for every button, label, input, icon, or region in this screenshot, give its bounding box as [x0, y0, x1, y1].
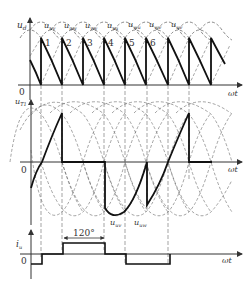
svg-text:4: 4 — [108, 38, 114, 48]
svg-text:uvu: uvu — [107, 21, 118, 31]
iu-origin-label: 0 — [21, 256, 27, 266]
svg-text:3: 3 — [87, 38, 93, 48]
svg-text:2: 2 — [66, 38, 72, 48]
svg-text:uvw: uvw — [85, 21, 98, 31]
svg-text:uuw: uuw — [64, 21, 77, 31]
svg-text:uwu: uwu — [128, 20, 141, 30]
svg-text:1: 1 — [45, 38, 51, 48]
ut1-axis-label: uT1 — [15, 97, 27, 107]
waveform-diagram: ud 0 ωt uuv uuw uvw uvu uwu uwv uuv 1 2 … — [0, 0, 251, 289]
panel-output-voltage: ud 0 ωt uuv uuw uvw uvu uwu uwv uuv 1 2 … — [17, 18, 242, 100]
panel-phase-current: 120° iu 0 ωt — [16, 228, 242, 279]
iu-x-label: ωt — [222, 256, 233, 265]
svg-text:5: 5 — [129, 38, 135, 48]
annotation-uuv: uuv — [110, 218, 121, 228]
ud-axis-label: ud — [17, 20, 27, 31]
ut1-x-label: ωt — [228, 165, 239, 174]
commutation-guides — [41, 85, 189, 265]
ud-waveform — [30, 38, 225, 85]
panel-thyristor-voltage: 0 uT1 ωt uuv uuw — [10, 97, 242, 228]
ut1-waveform — [31, 113, 212, 215]
ut1-origin-label: 0 — [21, 165, 27, 175]
annotation-uuw: uuw — [134, 218, 147, 228]
line-voltage-labels: uuv uuw uvw uvu uwu uwv uuv — [44, 20, 182, 31]
iu-axis-label: iu — [16, 239, 22, 250]
svg-text:uwv: uwv — [149, 20, 161, 30]
svg-text:uuv: uuv — [44, 21, 55, 31]
svg-text:6: 6 — [150, 38, 156, 48]
ud-origin-label: 0 — [19, 87, 25, 97]
pulse-width-label: 120° — [73, 228, 95, 238]
svg-text:uuv: uuv — [171, 20, 182, 30]
ud-x-label: ωt — [228, 89, 239, 98]
